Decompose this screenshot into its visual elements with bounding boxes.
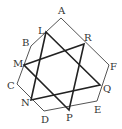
label-d: D: [41, 114, 49, 125]
label-e: E: [94, 104, 101, 115]
label-q: Q: [103, 83, 111, 94]
label-b: B: [22, 37, 29, 48]
label-n: N: [21, 97, 30, 108]
hexagon-diagram: ABCDEFLRMQNP: [0, 0, 122, 129]
label-l: L: [38, 25, 45, 36]
label-c: C: [7, 80, 15, 91]
label-m: M: [13, 58, 23, 69]
label-f: F: [110, 61, 117, 72]
hexagon-abcdef: [17, 18, 109, 111]
label-p: P: [66, 112, 73, 123]
label-r: R: [84, 32, 92, 43]
label-a: A: [57, 5, 66, 16]
